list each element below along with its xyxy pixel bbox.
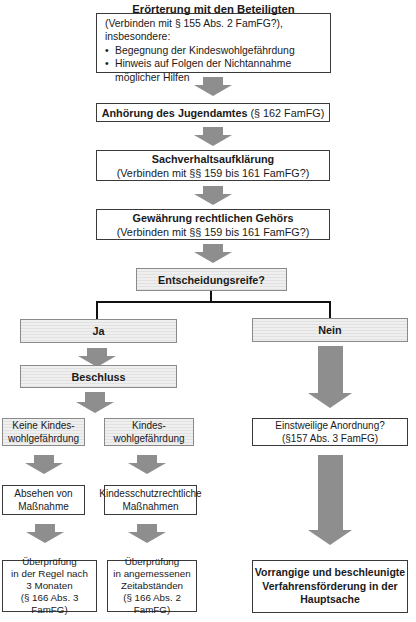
line: Hauptsache bbox=[300, 593, 360, 607]
node-sachverhalt: Sachverhaltsaufklärung (Verbinden mit §§… bbox=[96, 150, 330, 181]
bullet-icon: • bbox=[105, 57, 115, 84]
line: wohlgefährdung bbox=[113, 432, 184, 445]
node-kindeswohlgefaehrdung: Kindes- wohlgefährdung bbox=[104, 418, 194, 446]
flow-arrow-down-icon bbox=[26, 524, 64, 543]
line: Vorrangige und beschleunigte bbox=[255, 566, 405, 580]
node-anhoerung-label: Anhörung des Jugendamtes (§ 162 FamFG) bbox=[102, 106, 325, 120]
line: in der Regel nach bbox=[11, 568, 88, 580]
node-gehoer-title: Gewährung rechtlichen Gehörs bbox=[133, 211, 294, 225]
node-beschluss-label: Beschluss bbox=[71, 370, 125, 384]
node-entscheidungsreife: Entscheidungsreife? bbox=[136, 268, 287, 291]
node-sachverhalt-title: Sachverhaltsaufklärung bbox=[152, 152, 274, 166]
node-einstweilige-anordnung: Einstweilige Anordnung? (§157 Abs. 3 Fam… bbox=[252, 418, 408, 446]
bullet-text: Begegnung der Kindeswohlgefährdung bbox=[115, 44, 295, 58]
flow-arrow-down-icon bbox=[194, 244, 232, 263]
flow-arrow-down-icon bbox=[194, 77, 232, 96]
node-kindesschutzrechtliche-massnahmen: Kindesschutzrechtliche Maßnahmen bbox=[104, 485, 197, 515]
line: Absehen von bbox=[14, 487, 72, 500]
node-eroerterung-title: Erörterung mit den Beteiligten bbox=[105, 2, 322, 17]
flowchart-famfg-verfahren: Erörterung mit den Beteiligten (Verbinde… bbox=[0, 0, 416, 622]
flow-arrow-down-icon bbox=[194, 186, 232, 205]
line: Überprüfung bbox=[22, 556, 76, 568]
node-anhoerung-rest: (§ 162 FamFG) bbox=[247, 107, 324, 119]
node-gehoer-subtitle: (Verbinden mit §§ 159 bis 161 FamFG?) bbox=[117, 225, 310, 239]
line: 3 Monaten bbox=[26, 580, 72, 592]
line: Kindesschutzrechtliche bbox=[99, 487, 201, 500]
flow-arrow-down-icon bbox=[76, 392, 114, 413]
line: in angemessenen bbox=[113, 568, 190, 580]
line: (§ 166 Abs. 3 FamFG) bbox=[3, 592, 96, 616]
node-vorrangige-verfahrensfoerderung: Vorrangige und beschleunigte Verfahrensf… bbox=[252, 560, 408, 613]
node-absehen-von-massnahme: Absehen von Maßnahme bbox=[2, 485, 85, 515]
line: Kindes- bbox=[132, 419, 166, 432]
line: (§ 166 Abs. 2 FamFG) bbox=[108, 592, 196, 616]
node-anhoerung-bold: Anhörung des Jugendamtes bbox=[102, 107, 248, 119]
connector-to-nein bbox=[329, 301, 331, 318]
node-ueberpruefung-zeitabstaende: Überprüfung in angemessenen Zeitabstände… bbox=[107, 560, 197, 612]
node-gehoer: Gewährung rechtlichen Gehörs (Verbinden … bbox=[96, 209, 330, 240]
node-nein: Nein bbox=[252, 318, 408, 342]
line: Einstweilige Anordnung? bbox=[275, 419, 385, 432]
node-ja-label: Ja bbox=[92, 324, 104, 338]
line: (§157 Abs. 3 FamFG) bbox=[282, 432, 378, 445]
flow-arrow-down-long-icon bbox=[308, 455, 352, 545]
line: Maßnahme bbox=[18, 500, 69, 513]
line: wohlgefährdung bbox=[8, 432, 79, 445]
node-sachverhalt-subtitle: (Verbinden mit §§ 159 bis 161 FamFG?) bbox=[117, 166, 310, 180]
flow-arrow-down-icon bbox=[128, 455, 166, 474]
flow-arrow-down-icon bbox=[194, 127, 232, 146]
bullet-icon: • bbox=[105, 44, 115, 58]
line: Keine Kindes- bbox=[12, 419, 74, 432]
line: Maßnahmen bbox=[122, 500, 178, 513]
flow-arrow-down-long-icon bbox=[308, 346, 352, 408]
node-eroerterung-bullet-1: • Begegnung der Kindeswohlgefährdung bbox=[105, 44, 322, 58]
node-anhoerung: Anhörung des Jugendamtes (§ 162 FamFG) bbox=[96, 103, 330, 122]
node-entscheidungsreife-label: Entscheidungsreife? bbox=[158, 273, 265, 287]
line: Zeitabständen bbox=[121, 580, 183, 592]
node-ueberpruefung-3-monate: Überprüfung in der Regel nach 3 Monaten … bbox=[2, 560, 97, 612]
line: Überprüfung bbox=[125, 556, 179, 568]
node-eroerterung-subtitle: (Verbinden mit § 155 Abs. 2 FamFG?), ins… bbox=[105, 17, 322, 44]
node-eroerterung: Erörterung mit den Beteiligten (Verbinde… bbox=[96, 13, 331, 73]
node-nein-label: Nein bbox=[318, 323, 341, 337]
connector-to-ja bbox=[96, 301, 98, 319]
flow-arrow-down-icon bbox=[128, 524, 166, 543]
flow-arrow-down-icon bbox=[25, 455, 63, 474]
line: Verfahrensförderung in der bbox=[262, 580, 397, 594]
connector-horizontal bbox=[96, 301, 331, 303]
node-beschluss: Beschluss bbox=[20, 365, 177, 388]
node-keine-kindeswohlgefaehrdung: Keine Kindes- wohlgefährdung bbox=[2, 418, 85, 446]
node-ja: Ja bbox=[20, 319, 177, 343]
